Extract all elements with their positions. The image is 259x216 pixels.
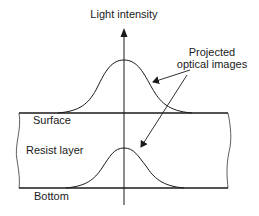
bottom-label: Bottom [34, 190, 69, 202]
diagram-canvas [0, 0, 259, 216]
bottom-intensity-curve [66, 148, 184, 188]
callout-label-line2: optical images [174, 58, 250, 70]
surface-intensity-curve [58, 60, 192, 113]
intensity-axis [121, 28, 128, 205]
callout-arrow-upper [153, 70, 190, 82]
callout-label-line1: Projected [176, 46, 248, 58]
left-break-edge [16, 113, 19, 188]
axis-label: Light intensity [86, 8, 162, 20]
right-break-edge [227, 113, 231, 188]
resist-layer-label: Resist layer [26, 144, 83, 156]
axis-arrowhead-icon [121, 28, 128, 37]
surface-label: Surface [33, 114, 71, 126]
